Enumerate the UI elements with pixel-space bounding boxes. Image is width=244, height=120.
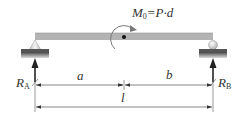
dimension-a bbox=[36, 83, 123, 86]
dimension-b bbox=[125, 83, 212, 86]
load-point bbox=[122, 35, 126, 39]
pin-support-left bbox=[21, 40, 49, 58]
dimension-label-l: l bbox=[121, 91, 125, 104]
reaction-label-left: RA bbox=[16, 76, 30, 91]
dimension-label-a: a bbox=[77, 69, 84, 82]
moment-arrowhead-icon bbox=[130, 25, 137, 32]
roller-support-right bbox=[199, 41, 227, 59]
dimension-l bbox=[36, 105, 212, 108]
dimension-label-b: b bbox=[166, 68, 173, 81]
moment-label: M0=P·d bbox=[132, 6, 173, 21]
reaction-label-right: RB bbox=[218, 76, 231, 91]
